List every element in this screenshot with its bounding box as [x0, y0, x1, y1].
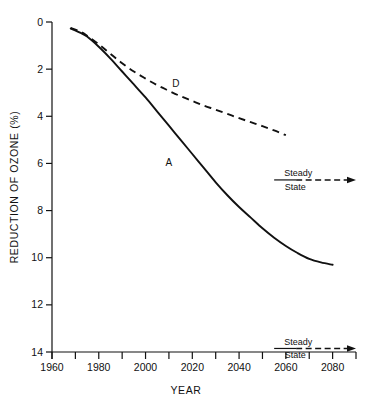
annotations-group: SteadyStateSteadyState: [274, 168, 356, 360]
steady-state-upper: SteadyState: [274, 168, 356, 192]
x-tick-label: 2040: [227, 361, 251, 373]
series-curve-a: [71, 29, 333, 265]
steady-state-upper-line2: State: [285, 182, 306, 192]
steady-state-lower-arrow-icon: [347, 345, 356, 351]
x-tick-label: 2080: [321, 361, 345, 373]
steady-state-upper-line1: Steady: [284, 168, 313, 178]
steady-state-lower-line1: Steady: [284, 337, 313, 347]
y-tick-label: 8: [37, 204, 43, 216]
steady-state-upper-arrow-icon: [347, 177, 356, 183]
curve-label-a: A: [166, 157, 173, 168]
x-tick-label: 1980: [87, 361, 111, 373]
y-tick-label: 0: [37, 16, 43, 28]
y-tick-label: 6: [37, 157, 43, 169]
x-tick-label: 2000: [134, 361, 158, 373]
y-tick-label: 10: [31, 251, 43, 263]
x-tick-label: 1960: [40, 361, 64, 373]
ozone-reduction-chart: 02468101214 1960198020002020204020602080…: [0, 0, 367, 412]
curve-label-d: D: [172, 78, 179, 89]
y-axis-tick-labels: 02468101214: [31, 16, 43, 358]
steady-state-lower-line2: State: [285, 350, 306, 360]
y-tick-label: 4: [37, 110, 43, 122]
x-axis-title: YEAR: [171, 384, 202, 396]
x-axis-ticks: [52, 352, 356, 359]
steady-state-lower: SteadyState: [274, 337, 356, 361]
y-axis-ticks: [46, 22, 52, 352]
y-tick-label: 14: [31, 346, 43, 358]
y-tick-label: 2: [37, 63, 43, 75]
data-series-group: [71, 28, 333, 265]
x-tick-label: 2060: [274, 361, 298, 373]
y-axis-title: REDUCTION OF OZONE (%): [8, 111, 20, 264]
x-axis-tick-labels: 1960198020002020204020602080: [40, 361, 344, 373]
chart-canvas: 02468101214 1960198020002020204020602080…: [0, 0, 367, 412]
x-tick-label: 2020: [181, 361, 205, 373]
y-tick-label: 12: [31, 298, 43, 310]
